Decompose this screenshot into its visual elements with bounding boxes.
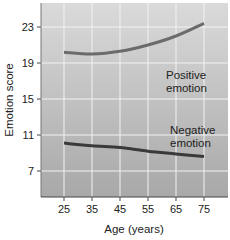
negative-emotion-label-line1: Negative — [170, 124, 215, 136]
positive-emotion-label-line1: Positive — [166, 69, 206, 81]
y-tick-label: 23 — [22, 21, 34, 33]
x-tick-label: 75 — [198, 203, 210, 215]
x-tick-label: 45 — [114, 203, 126, 215]
y-axis-title: Emotion score — [3, 63, 15, 137]
line-chart: 253545556575711151923 Emotion score Age … — [0, 0, 230, 240]
x-tick-label: 35 — [86, 203, 98, 215]
negative-emotion-label-line2: emotion — [170, 137, 211, 149]
positive-emotion-label-line2: emotion — [166, 82, 207, 94]
x-tick-label: 65 — [170, 203, 182, 215]
y-tick-label: 19 — [22, 57, 34, 69]
x-tick-label: 55 — [142, 203, 154, 215]
x-axis-title: Age (years) — [104, 223, 164, 235]
x-tick-label: 25 — [58, 203, 70, 215]
y-tick-label: 7 — [28, 165, 34, 177]
plot-area — [41, 3, 228, 197]
y-tick-label: 15 — [22, 93, 34, 105]
y-tick-label: 11 — [23, 129, 34, 141]
